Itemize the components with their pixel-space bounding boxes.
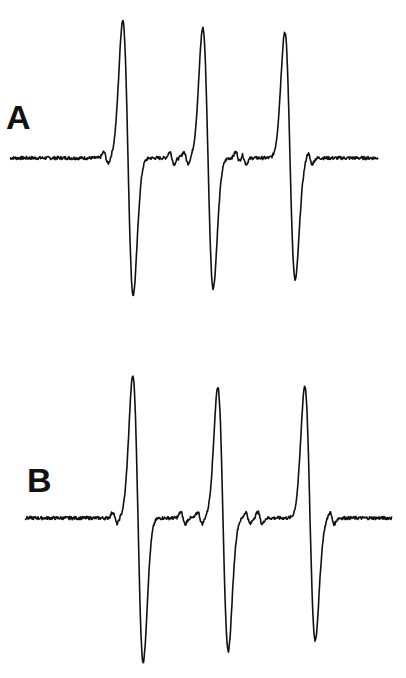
spectrum-trace-b	[25, 376, 392, 663]
spectrum-trace-a	[10, 21, 378, 296]
epr-spectra-figure: A B	[0, 0, 406, 678]
spectra-plot	[0, 0, 406, 678]
